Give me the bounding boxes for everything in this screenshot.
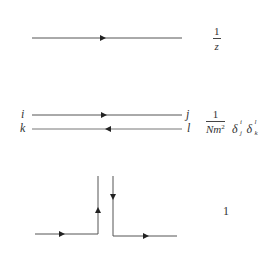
propagator-weight-fraction: 1 z — [213, 26, 221, 52]
arrow-up-icon — [95, 207, 101, 213]
index-label-k: k — [20, 122, 25, 134]
double-line-bottom — [32, 126, 182, 132]
single-propagator-line — [32, 35, 182, 41]
denominator-exponent: 2 — [221, 123, 225, 131]
double-line-weight-fraction: 1 Nm2 — [206, 109, 225, 135]
arrow-right-icon — [143, 233, 149, 239]
delta-subscript: k — [255, 130, 258, 137]
index-label-i: i — [21, 108, 24, 120]
delta-superscript: l — [255, 119, 257, 126]
delta-symbol: δ — [247, 122, 253, 136]
arrow-right-icon — [59, 231, 65, 237]
arrow-right-icon — [101, 112, 107, 118]
kronecker-delta-2: δlk — [247, 122, 253, 137]
kronecker-deltas: δijδlk — [232, 122, 261, 137]
vertex-right-branch — [110, 176, 177, 239]
denominator-base: Nm — [206, 123, 221, 135]
arrow-left-icon — [105, 126, 111, 132]
double-line-top — [32, 112, 182, 118]
arrow-right-icon — [100, 35, 106, 41]
fraction-numerator: 1 — [212, 109, 220, 121]
fraction-numerator: 1 — [213, 26, 221, 38]
vertex-weight-label: 1 — [223, 204, 229, 219]
fraction-denominator: Nm2 — [206, 122, 225, 135]
index-label-l: l — [187, 122, 190, 134]
kronecker-delta-1: δij — [232, 122, 238, 137]
index-label-j: j — [186, 108, 189, 120]
arrow-down-icon — [110, 194, 116, 200]
delta-superscript: i — [240, 119, 242, 126]
delta-subscript: j — [240, 130, 242, 137]
fraction-denominator: z — [215, 39, 219, 52]
vertex-left-branch — [35, 176, 101, 237]
delta-symbol: δ — [232, 122, 238, 136]
